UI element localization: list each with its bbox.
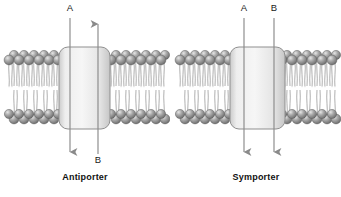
arrow-b-label: B [267,3,281,13]
diagram-canvas: A B Antiporter [0,0,341,197]
symporter-diagram [171,0,341,175]
panel-caption-symporter: Symporter [171,172,341,183]
panel-antiporter: A B Antiporter [0,0,170,197]
arrow-b-label: B [91,155,105,165]
membrane-left-segment [175,50,234,124]
panel-symporter: A B Symporter [171,0,341,197]
panel-caption-antiporter: Antiporter [0,172,170,183]
arrow-a-label: A [237,3,251,13]
antiporter-diagram [0,0,170,175]
membrane-left-segment [4,50,63,124]
membrane-right-segment [277,50,341,124]
transport-protein [59,47,110,129]
lipid-heads-lower [175,109,233,124]
arrow-a-label: A [63,3,77,13]
transport-protein [230,47,285,129]
lipid-heads-lower [4,109,62,124]
membrane-right-segment [106,50,170,124]
